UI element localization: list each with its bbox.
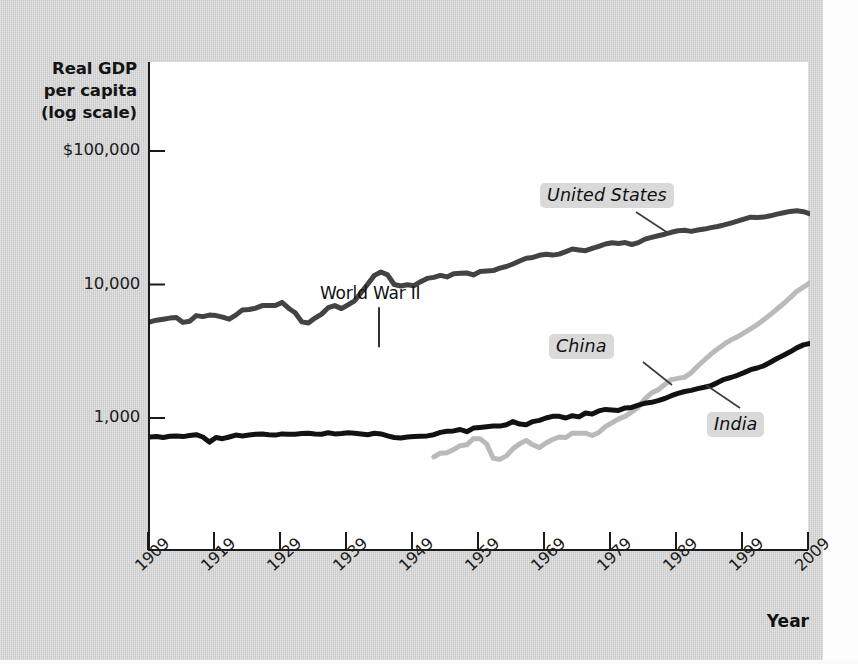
series-label-china: China bbox=[549, 334, 614, 359]
plot-area bbox=[148, 62, 808, 551]
y-tick-label: 10,000 bbox=[20, 274, 140, 293]
series-label-india: India bbox=[707, 412, 764, 437]
page-bottom-margin bbox=[0, 660, 858, 664]
chart-page: Real GDPper capita(log scale) $100,00010… bbox=[0, 0, 858, 664]
page-right-margin bbox=[823, 0, 858, 664]
y-axis-title: Real GDPper capita(log scale) bbox=[0, 58, 137, 124]
y-axis-title-line-0: Real GDP bbox=[0, 58, 137, 80]
series-line-united-states bbox=[150, 211, 810, 323]
chart-lines bbox=[150, 62, 810, 551]
y-tick-label: $100,000 bbox=[20, 140, 140, 159]
annotation-world-war-ii: World War II bbox=[320, 283, 420, 303]
x-axis-title: Year bbox=[767, 611, 809, 631]
y-axis-title-line-1: per capita bbox=[0, 80, 137, 102]
series-label-united-states: United States bbox=[540, 183, 674, 208]
y-tick-label: 1,000 bbox=[20, 407, 140, 426]
y-axis-title-line-2: (log scale) bbox=[0, 102, 137, 124]
